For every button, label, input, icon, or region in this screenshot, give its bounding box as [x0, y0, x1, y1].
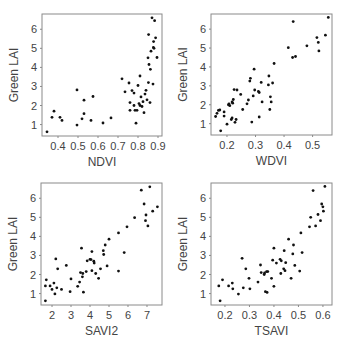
y-tick-label: 2: [200, 269, 206, 281]
x-tick-label: 0.4: [50, 140, 65, 152]
data-point: [260, 271, 263, 274]
data-point: [123, 251, 126, 254]
data-point: [248, 277, 251, 280]
y-tick-label: 2: [30, 269, 36, 281]
data-point: [153, 19, 156, 22]
data-point: [284, 261, 287, 264]
data-point: [126, 225, 129, 228]
data-point: [81, 117, 84, 120]
data-point: [271, 82, 274, 85]
y-tick-label: 6: [200, 23, 206, 35]
data-point: [121, 77, 124, 80]
data-point: [55, 286, 58, 289]
data-point: [143, 203, 146, 206]
data-point: [141, 105, 144, 108]
data-point: [90, 258, 93, 261]
data-point: [324, 185, 327, 188]
x-tick-label: 0.2: [219, 139, 234, 151]
data-point: [44, 299, 47, 302]
scatter-panel-savi2: 123456234567SAVI2Green LAI: [6, 183, 162, 338]
data-point: [143, 111, 146, 114]
data-point: [147, 33, 150, 36]
data-point: [53, 110, 56, 113]
data-point: [317, 213, 320, 216]
x-axis-label: WDVI: [256, 154, 287, 168]
data-point: [221, 278, 224, 281]
data-point: [241, 257, 244, 260]
y-tick-label: 4: [30, 230, 36, 242]
x-tick-label: 2: [49, 309, 55, 321]
x-tick-label: 0.6: [90, 140, 105, 152]
y-axis-label: Green LAI: [176, 217, 190, 272]
y-tick-label: 1: [31, 119, 37, 131]
data-point: [234, 121, 237, 124]
data-point: [227, 285, 230, 288]
data-point: [287, 46, 290, 49]
data-point: [51, 116, 54, 119]
data-point: [44, 285, 47, 288]
data-point: [83, 112, 86, 115]
data-point: [91, 269, 94, 272]
data-point: [150, 50, 153, 53]
x-tick-label: 3: [68, 309, 74, 321]
data-point: [258, 116, 261, 119]
data-point: [69, 290, 72, 293]
data-point: [102, 249, 105, 252]
data-point: [144, 219, 147, 222]
data-point: [124, 90, 127, 93]
data-point: [247, 99, 250, 102]
data-point: [294, 55, 297, 58]
data-point: [316, 36, 319, 39]
data-point: [149, 68, 152, 71]
data-point: [290, 277, 293, 280]
data-point: [117, 270, 120, 273]
data-point: [231, 102, 234, 105]
data-point: [106, 265, 109, 268]
data-point: [292, 20, 295, 23]
data-point: [60, 288, 63, 291]
y-tick-label: 1: [200, 288, 206, 300]
data-point: [257, 281, 260, 284]
y-tick-label: 2: [200, 99, 206, 111]
data-point: [137, 84, 140, 87]
data-point: [319, 219, 322, 222]
data-point: [275, 262, 278, 265]
data-point: [273, 62, 276, 65]
data-point: [139, 75, 142, 78]
y-tick-label: 4: [200, 230, 206, 242]
data-point: [153, 47, 156, 50]
data-point: [300, 232, 303, 235]
data-point: [82, 291, 85, 294]
x-tick-label: 5: [106, 309, 112, 321]
y-axis-label: Green LAI: [6, 217, 20, 272]
data-point: [322, 210, 325, 213]
data-point: [268, 75, 271, 78]
data-point: [269, 95, 272, 98]
data-point: [59, 116, 62, 119]
data-point: [248, 80, 251, 83]
data-point: [93, 262, 96, 265]
data-point: [242, 286, 245, 289]
data-point: [250, 121, 253, 124]
data-point: [144, 93, 147, 96]
data-point: [233, 88, 236, 91]
data-point: [231, 282, 234, 285]
y-tick-label: 6: [200, 192, 206, 204]
data-point: [94, 272, 97, 275]
y-tick-label: 4: [200, 61, 206, 73]
y-tick-label: 2: [31, 100, 37, 112]
data-point: [110, 117, 113, 120]
data-point: [266, 270, 269, 273]
data-point: [273, 285, 276, 288]
data-point: [46, 130, 49, 133]
data-point: [99, 267, 102, 270]
data-point: [151, 210, 154, 213]
data-point: [152, 83, 155, 86]
x-axis-label: TSAVI: [255, 324, 289, 338]
data-point: [236, 89, 239, 92]
data-point: [92, 95, 95, 98]
x-tick-label: 6: [125, 309, 131, 321]
data-point: [145, 214, 148, 217]
data-point: [279, 272, 282, 275]
data-point: [76, 124, 79, 127]
